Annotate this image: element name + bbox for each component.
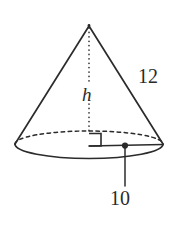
right-angle-marker — [89, 134, 101, 147]
height-label: h — [82, 85, 92, 104]
cone-diagram-figure: 12 h 10 — [0, 0, 172, 228]
apex-vertex-dot — [88, 24, 91, 27]
radius-label: 10 — [110, 188, 130, 208]
cone-left-slant-edge — [15, 26, 89, 144]
slant-height-label: 12 — [138, 66, 158, 86]
cone-diagram-canvas — [0, 0, 172, 228]
